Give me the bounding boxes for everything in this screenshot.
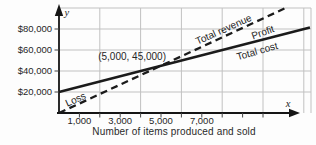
y-axis-symbol: y xyxy=(64,7,70,18)
series-label-total-cost: Total cost xyxy=(235,40,279,62)
x-tick-label-0: 1,000 xyxy=(68,115,92,126)
y-tick-label-1: $40,000 xyxy=(18,65,52,76)
x-tick-label-2: 5,000 xyxy=(149,115,173,126)
y-tick-label-2: $60,000 xyxy=(18,44,52,55)
x-axis-title: Number of items produced and sold xyxy=(48,126,300,137)
break-even-chart-figure: $20,000$40,000$60,000$80,0001,0003,0005,… xyxy=(0,0,316,145)
x-tick-label-1: 3,000 xyxy=(108,115,132,126)
y-tick-label-3: $80,000 xyxy=(18,23,52,34)
chart-canvas: $20,000$40,000$60,000$80,0001,0003,0005,… xyxy=(0,0,316,145)
break-even-label: (5,000, 45,000) xyxy=(98,51,166,62)
series-line-total-cost xyxy=(59,27,310,92)
x-axis-symbol: x xyxy=(285,98,291,109)
series-line-total-revenue xyxy=(59,9,284,113)
x-tick-label-3: 7,000 xyxy=(190,115,214,126)
x-axis-arrowhead xyxy=(289,109,300,117)
y-axis-arrowhead xyxy=(55,4,63,16)
y-tick-label-0: $20,000 xyxy=(18,86,52,97)
